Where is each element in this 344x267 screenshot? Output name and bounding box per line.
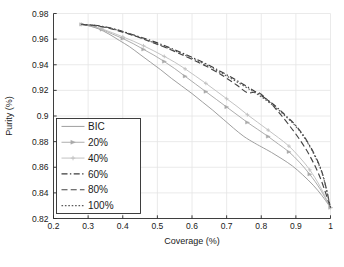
x-tick-label: 0.2 [48,221,60,231]
y-tick-label: 0.86 [32,162,49,172]
y-tick-label: 0.94 [32,60,49,70]
y-axis-title: Purity (%) [4,96,14,136]
legend-label: 100% [88,200,114,211]
x-tick-label: 0.3 [82,221,94,231]
legend-label: BIC [88,121,105,132]
y-tick-label: 0.84 [32,188,49,198]
y-tick-label: 0.82 [32,214,49,224]
x-tick-labels: 0.20.30.40.50.60.70.80.91 [48,221,334,231]
y-tick-label: 0.9 [37,111,49,121]
y-tick-label: 0.88 [32,137,49,147]
x-tick-label: 0.6 [186,221,198,231]
x-tick-label: 0.9 [290,221,302,231]
x-tick-label: 0.5 [151,221,163,231]
purity-coverage-line-chart: 0.20.30.40.50.60.70.80.91 0.820.840.860.… [0,0,344,267]
legend-label: 60% [88,169,108,180]
y-tick-label: 0.98 [32,9,49,19]
x-tick-label: 0.7 [221,221,233,231]
legend-label: 80% [88,184,108,195]
x-axis-title: Coverage (%) [164,236,220,246]
chart-legend[interactable]: BIC20%40%60%80%100% [57,119,141,214]
legend-label: 20% [88,137,108,148]
x-tick-label: 0.8 [255,221,267,231]
y-tick-label: 0.96 [32,34,49,44]
chart-figure: 0.20.30.40.50.60.70.80.91 0.820.840.860.… [0,0,344,267]
x-tick-label: 1 [328,221,333,231]
y-tick-label: 0.92 [32,85,49,95]
legend-label: 40% [88,153,108,164]
x-tick-label: 0.4 [117,221,129,231]
